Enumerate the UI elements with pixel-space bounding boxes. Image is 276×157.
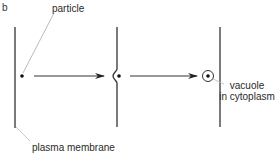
membrane-leader-line xyxy=(16,127,30,141)
particle-dot-2 xyxy=(117,74,121,78)
stage-3 xyxy=(203,27,221,127)
particle-dot-3 xyxy=(206,74,210,78)
vacuole-label-line1: vacuole xyxy=(218,80,276,91)
plasma-membrane-line-2 xyxy=(113,27,117,127)
stage-1 xyxy=(15,27,24,128)
phagocytosis-diagram: b particle plasma membrane vacuole in cy… xyxy=(0,0,276,157)
panel-label: b xyxy=(2,2,8,13)
stage-2 xyxy=(113,27,121,127)
particle-dot xyxy=(20,74,24,78)
vacuole-label: vacuole in cytoplasm xyxy=(218,80,276,102)
particle-label: particle xyxy=(52,3,84,14)
particle-leader-line xyxy=(23,13,54,73)
plasma-membrane-label: plasma membrane xyxy=(32,142,115,153)
vacuole-label-line2: in cytoplasm xyxy=(218,91,276,102)
